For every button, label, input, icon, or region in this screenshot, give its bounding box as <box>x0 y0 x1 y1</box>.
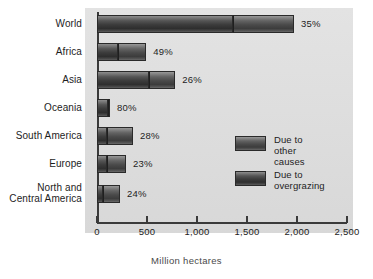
x-tick-mark <box>346 216 347 223</box>
plot-area: 05001,0001,5002,0002,500 35%49%26%80%28%… <box>85 8 353 233</box>
category-label: Africa <box>56 46 82 57</box>
category-label: North and Central America <box>9 182 82 204</box>
bar-row: 80% <box>85 99 345 117</box>
bar-row: 35% <box>85 15 345 33</box>
category-label: South America <box>16 130 82 141</box>
x-tick-mark <box>196 216 197 223</box>
x-tick-label: 0 <box>94 226 99 237</box>
x-tick-label: 1,000 <box>185 226 210 237</box>
bar-segment-other-causes <box>103 185 121 203</box>
bar-segment-other-causes <box>149 71 176 89</box>
x-tick-label: 2,000 <box>285 226 310 237</box>
bar-segment-overgrazing <box>97 71 149 89</box>
x-tick-mark <box>246 216 247 223</box>
bar-segment-overgrazing <box>97 155 107 173</box>
legend-label: Due to overgrazing <box>274 169 325 191</box>
bar-segment-overgrazing <box>97 15 233 33</box>
bar-value-label: 23% <box>133 158 153 169</box>
category-label: Europe <box>49 158 82 169</box>
x-axis-title: Million hectares <box>0 255 373 266</box>
bar-row: 49% <box>85 43 345 61</box>
bar-row: 26% <box>85 71 345 89</box>
bar-segment-other-causes <box>118 43 146 61</box>
bar-value-label: 24% <box>127 188 147 199</box>
bar-value-label: 26% <box>182 74 202 85</box>
x-tick-label: 2,500 <box>335 226 360 237</box>
bar-segment-other-causes <box>107 155 127 173</box>
legend-swatch-other-causes <box>235 136 266 151</box>
bar-segment-other-causes <box>108 99 111 117</box>
bar-row: 28% <box>85 127 345 145</box>
category-label: World <box>56 18 82 29</box>
bar-segment-other-causes <box>107 127 133 145</box>
bar-segment-overgrazing <box>97 99 108 117</box>
bar-value-label: 80% <box>117 102 137 113</box>
x-tick-label: 500 <box>139 226 155 237</box>
bar-segment-overgrazing <box>97 43 118 61</box>
x-tick-mark <box>296 216 297 223</box>
legend-swatch-overgrazing <box>235 171 266 186</box>
bar-value-label: 28% <box>140 130 160 141</box>
chart-figure: 05001,0001,5002,0002,500 35%49%26%80%28%… <box>0 0 373 279</box>
category-label: Oceania <box>44 102 82 113</box>
category-label: Asia <box>62 74 82 85</box>
bar-segment-overgrazing <box>97 127 107 145</box>
x-tick-mark <box>96 216 97 223</box>
bar-value-label: 35% <box>301 18 321 29</box>
bar-segment-other-causes <box>233 15 295 33</box>
x-axis-line <box>97 222 347 224</box>
bar-value-label: 49% <box>153 46 173 57</box>
x-tick-label: 1,500 <box>235 226 260 237</box>
legend-label: Due to other causes <box>274 134 305 167</box>
x-tick-mark <box>146 216 147 223</box>
